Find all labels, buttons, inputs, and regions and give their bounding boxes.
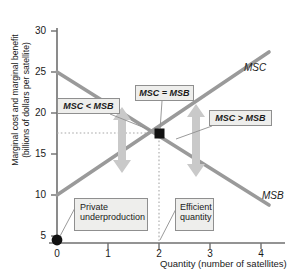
left-double-arrow — [113, 107, 131, 173]
y-axis-ticks — [51, 31, 57, 236]
callout-efficient-quantity: Efficient quantity — [175, 198, 214, 231]
y-axis-title-line2: (billions of dollars per satellite) — [21, 20, 32, 180]
callout-msc-equals-msb: MSC = MSB — [135, 85, 194, 101]
x-tick-0: 0 — [50, 248, 64, 259]
chart-figure: 30 25 20 15 10 5 0 1 2 3 4 Quantity (num… — [0, 0, 296, 279]
callout-msc-less-than-msb: MSC < MSB — [57, 98, 120, 114]
callout-private-underproduction: Private underproduction — [74, 198, 148, 231]
x-tick-1: 1 — [101, 248, 115, 259]
efficient-quantity-line1: Efficient — [180, 202, 210, 212]
right-double-arrow — [187, 104, 205, 177]
private-underproduction-line2: underproduction — [80, 212, 143, 222]
y-axis-title-line1: Marginal cost and marginal benefit — [10, 20, 21, 180]
x-axis-ticks — [108, 243, 261, 249]
y-tick-5: 5 — [28, 230, 46, 241]
y-axis-title: Marginal cost and marginal benefit (bill… — [10, 20, 34, 180]
private-quantity-point-marker — [52, 235, 63, 246]
msc-series-label: MSC — [244, 62, 266, 73]
efficient-point-marker — [155, 129, 165, 139]
private-underproduction-line1: Private — [80, 202, 143, 212]
efficient-quantity-line2: quantity — [180, 212, 210, 222]
y-tick-10: 10 — [28, 189, 46, 200]
x-axis-title: Quantity (number of satellites) — [160, 258, 287, 269]
callout-msc-greater-than-msb: MSC > MSB — [209, 110, 272, 126]
msb-series-label: MSB — [262, 190, 284, 201]
